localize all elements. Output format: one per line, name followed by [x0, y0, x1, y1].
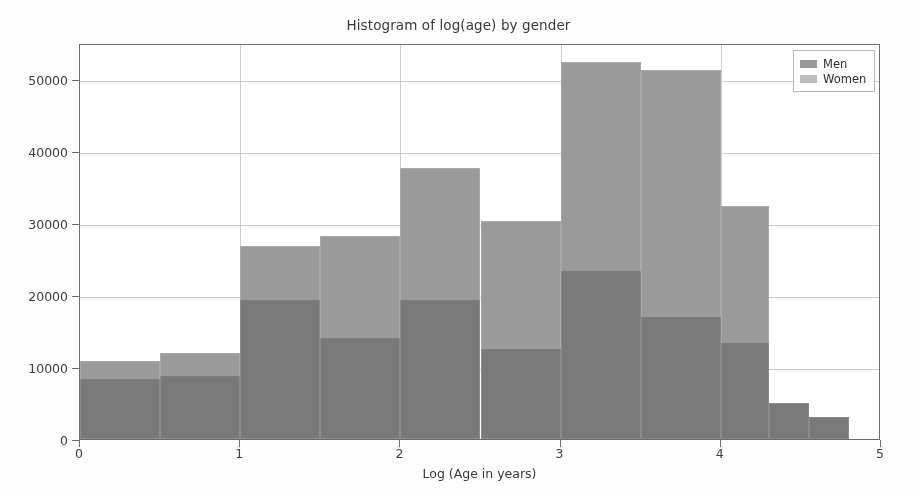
legend-item-women[interactable]: Women [800, 71, 868, 86]
histogram-bar [721, 343, 769, 439]
y-axis-tick-label: 0 [60, 433, 68, 448]
y-axis-tick-label: 50000 [28, 73, 68, 88]
y-axis-tick-mark [72, 368, 79, 369]
y-axis-tick-label: 20000 [28, 289, 68, 304]
histogram-bar [240, 300, 320, 439]
histogram-bar [80, 379, 160, 439]
histogram-bar [160, 376, 240, 439]
chart-legend: Men Women [793, 50, 875, 92]
x-axis-label: Log (Age in years) [79, 466, 880, 481]
y-axis-tick-label: 30000 [28, 217, 68, 232]
page-title: Histogram of log(age) by gender [0, 17, 917, 33]
legend-item-men[interactable]: Men [800, 56, 868, 71]
histogram-bar [320, 338, 400, 439]
histogram-bar [769, 403, 809, 439]
x-axis-tick-label: 4 [716, 446, 724, 461]
x-axis-tick-label: 1 [235, 446, 243, 461]
y-axis-tick-labels: 01000020000300004000050000 [0, 0, 68, 493]
histogram-bar [481, 349, 561, 439]
y-axis-tick-label: 40000 [28, 145, 68, 160]
histogram-bar [809, 417, 849, 439]
x-axis-tick-label: 5 [876, 446, 884, 461]
y-axis-tick-label: 10000 [28, 361, 68, 376]
y-axis-tick-mark [72, 152, 79, 153]
legend-label-women: Women [823, 72, 866, 86]
histogram-figure: Histogram of log(age) by gender 01000020… [0, 0, 917, 493]
histogram-bar [641, 317, 721, 439]
x-axis-tick-label: 3 [556, 446, 564, 461]
y-axis-tick-mark [72, 80, 79, 81]
x-axis-tick-label: 2 [395, 446, 403, 461]
y-axis-tick-mark [72, 224, 79, 225]
y-axis-tick-mark [72, 296, 79, 297]
legend-label-men: Men [823, 57, 847, 71]
legend-swatch-women-icon [800, 75, 817, 83]
gridline-horizontal [80, 153, 879, 154]
x-axis-tick-label: 0 [75, 446, 83, 461]
histogram-bar [400, 300, 480, 439]
histogram-bar [561, 271, 641, 439]
plot-area [79, 44, 880, 440]
y-axis-tick-mark [72, 440, 79, 441]
gridline-horizontal [80, 81, 879, 82]
legend-swatch-men-icon [800, 60, 817, 68]
